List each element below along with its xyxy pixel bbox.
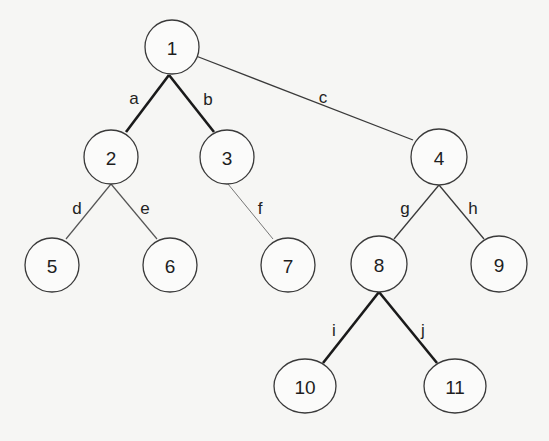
node-3: 3 <box>200 130 254 184</box>
edge-label-i: i <box>332 321 336 340</box>
edge-label-d: d <box>72 199 81 218</box>
edge-j <box>379 292 437 363</box>
node-10: 10 <box>274 359 336 413</box>
edge-label-a: a <box>129 89 139 108</box>
node-11: 11 <box>424 359 486 413</box>
node-label: 1 <box>167 38 178 59</box>
node-9: 9 <box>471 236 527 292</box>
edge-e <box>111 184 157 239</box>
edge-label-f: f <box>258 199 263 218</box>
edge-label-e: e <box>140 199 149 218</box>
node-label: 7 <box>283 256 294 277</box>
nodes-group: 1234567891011 <box>25 20 527 413</box>
node-8: 8 <box>351 236 407 292</box>
node-label: 9 <box>494 255 505 276</box>
edges-group: abcdefghij <box>66 56 484 363</box>
node-1: 1 <box>145 20 199 74</box>
node-5: 5 <box>25 238 79 292</box>
node-6: 6 <box>143 238 197 292</box>
node-label: 5 <box>47 256 58 277</box>
node-2: 2 <box>84 130 138 184</box>
edge-f <box>228 184 273 239</box>
node-label: 3 <box>222 148 233 169</box>
node-4: 4 <box>411 129 467 185</box>
node-label: 4 <box>434 148 445 169</box>
edge-c <box>196 56 413 140</box>
edge-label-h: h <box>468 199 477 218</box>
tree-diagram: abcdefghij 1234567891011 <box>0 0 549 441</box>
node-label: 11 <box>445 377 465 398</box>
edge-label-b: b <box>203 90 212 109</box>
node-label: 8 <box>374 255 385 276</box>
node-7: 7 <box>261 238 315 292</box>
node-label: 2 <box>106 148 117 169</box>
node-label: 6 <box>165 256 176 277</box>
edge-label-c: c <box>319 88 328 107</box>
edge-label-g: g <box>400 199 409 218</box>
node-label: 10 <box>294 377 315 398</box>
edge-label-j: j <box>420 321 425 340</box>
